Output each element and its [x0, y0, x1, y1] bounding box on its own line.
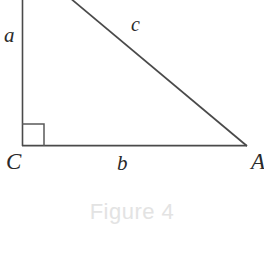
figure-canvas: a b c C A Figure 4: [0, 0, 264, 264]
vertex-label-a: A: [251, 150, 264, 173]
side-label-c: c: [131, 14, 140, 34]
side-label-a: a: [4, 25, 15, 46]
figure-caption: Figure 4: [0, 199, 264, 225]
vertex-label-c: C: [6, 150, 21, 173]
triangle-hypotenuse-line: [61, 0, 248, 146]
right-angle-marker-icon: [22, 124, 44, 146]
side-label-b: b: [117, 153, 128, 174]
